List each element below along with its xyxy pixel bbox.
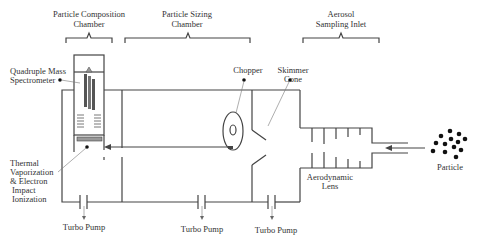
detector-icon	[86, 67, 92, 72]
section-label-composition-line2: Chamber	[73, 19, 104, 29]
particle-flow-arrow-inlet	[385, 145, 425, 151]
section-label-sizing-line1: Particle Sizing	[162, 9, 213, 19]
vaporizer-heater	[77, 137, 102, 141]
bracket-sizing	[125, 33, 250, 43]
turbo-pump-3: Turbo Pump	[255, 195, 297, 235]
callout-dot	[288, 78, 292, 82]
turbo-pump-label: Turbo Pump	[63, 222, 105, 232]
vaporization-label-line5: Ionization	[12, 194, 47, 204]
bracket-inlet	[303, 33, 379, 43]
aerosol-mass-spectrometer-diagram: Particle Composition Chamber Particle Si…	[0, 0, 478, 245]
particle-beam-arrow	[104, 144, 232, 150]
quadrupole-rod-right	[92, 79, 95, 110]
vacuum-chamber	[62, 90, 300, 202]
section-label-sizing-line2: Chamber	[171, 19, 202, 29]
particle-label: Particle	[437, 162, 463, 172]
quadrupole-rod-middle	[88, 76, 91, 109]
ion-optics-plates	[77, 115, 101, 127]
quadrupole-rod-left	[84, 74, 87, 107]
skimmer-label-line2: Cone	[284, 74, 302, 84]
section-label-inlet-line2: Sampling Inlet	[316, 19, 367, 29]
turbo-pump-label: Turbo Pump	[181, 224, 223, 234]
lens-label-line2: Lens	[322, 181, 339, 191]
section-label-inlet-line1: Aerosol	[328, 9, 356, 19]
turbo-pump-2: Turbo Pump	[181, 195, 223, 234]
qms-label-line2: Spectrometer	[10, 75, 55, 85]
particle-cluster-icon	[431, 129, 468, 160]
chopper-wheel	[223, 112, 243, 150]
bracket-composition	[66, 33, 112, 43]
turbo-pump-label: Turbo Pump	[255, 225, 297, 235]
turbo-pump-1: Turbo Pump	[63, 195, 105, 232]
quadrupole-mass-spectrometer	[74, 55, 104, 141]
chopper-label: Chopper	[233, 65, 262, 75]
section-label-composition-line1: Particle Composition	[53, 9, 126, 19]
